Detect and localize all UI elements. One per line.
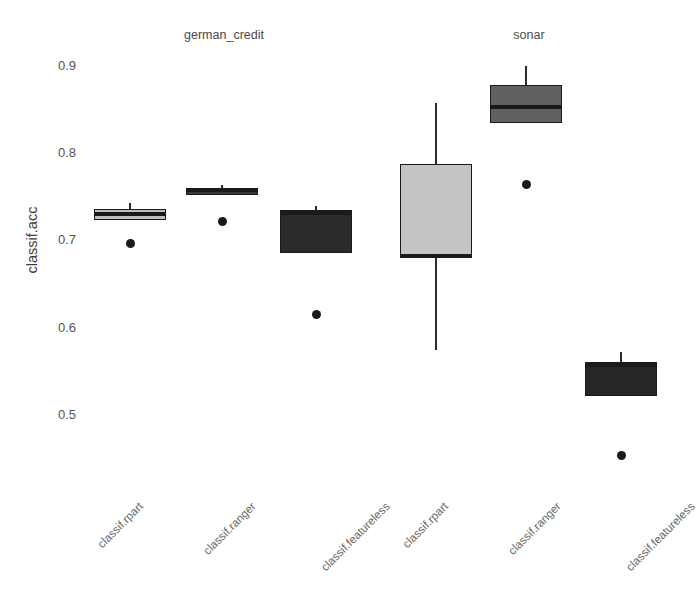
median-line bbox=[186, 188, 258, 192]
outlier-point bbox=[218, 217, 227, 226]
outlier-point bbox=[617, 451, 626, 460]
box-sonar-classif-rpart bbox=[400, 164, 472, 256]
median-line bbox=[400, 254, 472, 258]
outlier-point bbox=[126, 239, 135, 248]
median-line bbox=[280, 210, 352, 214]
whisker-upper bbox=[525, 66, 527, 85]
median-line bbox=[490, 105, 562, 109]
whisker-upper bbox=[620, 352, 622, 362]
median-line bbox=[94, 212, 166, 216]
outlier-point bbox=[312, 310, 321, 319]
median-line bbox=[585, 363, 657, 367]
whisker-upper bbox=[435, 103, 437, 164]
outlier-point bbox=[522, 180, 531, 189]
whisker-lower bbox=[435, 256, 437, 350]
box-german_credit-classif-featureless bbox=[280, 212, 352, 253]
